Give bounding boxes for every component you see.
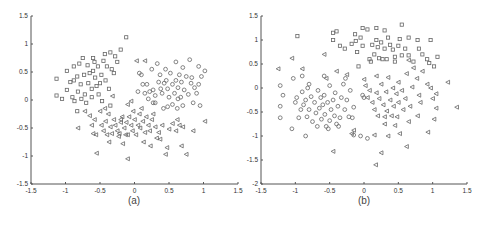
y-tick-label: -0.5 xyxy=(17,124,29,131)
circle-marker xyxy=(337,125,341,129)
square-marker xyxy=(90,96,93,99)
triangle-marker xyxy=(455,105,459,109)
square-marker xyxy=(100,100,103,103)
triangle-marker xyxy=(395,115,399,119)
y-tick-label: 0 xyxy=(254,84,258,91)
triangle-marker xyxy=(203,119,207,123)
square-marker xyxy=(92,56,95,59)
circle-marker xyxy=(174,79,178,83)
circle-marker xyxy=(307,108,311,112)
triangle-marker xyxy=(131,109,135,113)
circle-marker xyxy=(307,82,311,86)
circle-marker xyxy=(186,93,190,97)
triangle-marker xyxy=(146,123,150,127)
square-marker xyxy=(357,65,360,68)
square-marker xyxy=(110,68,113,71)
square-marker xyxy=(114,55,117,58)
triangle-marker xyxy=(345,73,349,77)
circle-marker xyxy=(158,73,162,77)
circle-marker xyxy=(145,82,149,86)
y-tick-label: 0 xyxy=(24,96,28,103)
triangle-marker xyxy=(101,129,105,133)
triangle-marker xyxy=(434,92,438,96)
circle-marker xyxy=(326,127,330,131)
triangle-marker xyxy=(398,132,402,136)
circle-marker xyxy=(319,96,323,100)
square-marker xyxy=(417,47,420,50)
circle-marker xyxy=(336,104,340,108)
circle-marker xyxy=(188,58,192,62)
circle-marker xyxy=(320,117,324,121)
square-marker xyxy=(335,30,338,33)
square-marker xyxy=(65,69,68,72)
square-marker xyxy=(83,73,86,76)
square-marker xyxy=(375,26,378,29)
square-marker xyxy=(332,38,335,41)
circle-marker xyxy=(167,95,171,99)
triangle-marker xyxy=(400,88,404,92)
triangle-marker xyxy=(184,152,188,156)
triangle-marker xyxy=(432,117,436,121)
triangle-marker xyxy=(160,123,164,127)
triangle-marker xyxy=(179,144,183,148)
circle-marker xyxy=(184,75,188,79)
triangle-marker xyxy=(119,118,123,122)
square-marker xyxy=(102,59,105,62)
triangle-marker xyxy=(76,126,80,130)
square-marker xyxy=(96,65,99,68)
square-marker xyxy=(76,75,79,78)
circle-marker xyxy=(173,91,177,95)
circle-marker xyxy=(290,127,294,131)
triangle-marker xyxy=(175,118,179,122)
triangle-marker xyxy=(365,96,369,100)
y-tick-label: -1.5 xyxy=(247,156,259,163)
square-marker xyxy=(393,60,396,63)
circle-marker xyxy=(181,104,185,108)
square-marker xyxy=(375,38,378,41)
triangle-marker xyxy=(151,112,155,116)
square-marker xyxy=(359,36,362,39)
triangle-marker xyxy=(136,123,140,127)
triangle-marker xyxy=(113,123,117,127)
subplot-caption: (a) xyxy=(128,195,140,206)
circle-marker xyxy=(302,103,306,107)
circle-marker xyxy=(191,101,195,105)
circle-marker xyxy=(175,107,179,111)
triangle-marker xyxy=(362,77,366,81)
triangle-marker xyxy=(394,92,398,96)
circle-marker xyxy=(335,122,339,126)
triangle-marker xyxy=(124,120,128,124)
circle-marker xyxy=(143,91,147,95)
triangle-marker xyxy=(374,74,378,78)
square-marker xyxy=(407,54,410,57)
square-marker xyxy=(353,33,356,36)
triangle-marker xyxy=(133,118,137,122)
circle-marker xyxy=(195,91,199,95)
square-marker xyxy=(393,55,396,58)
square-marker xyxy=(361,26,364,29)
triangle-marker xyxy=(434,106,438,110)
y-tick-label: -1 xyxy=(252,132,258,139)
triangle-marker xyxy=(372,108,376,112)
triangle-marker xyxy=(383,122,387,126)
square-marker xyxy=(432,65,435,68)
triangle-marker xyxy=(391,86,395,90)
square-marker xyxy=(378,57,381,60)
triangle-marker xyxy=(107,140,111,144)
y-tick-label: -1 xyxy=(22,152,28,159)
circle-marker xyxy=(304,134,308,138)
triangle-marker xyxy=(143,59,147,63)
triangle-marker xyxy=(122,126,126,130)
x-tick-label: 0.5 xyxy=(394,187,403,194)
y-tick-label: -2 xyxy=(252,180,258,187)
x-tick-label: -1.5 xyxy=(255,187,267,194)
series-square xyxy=(296,23,439,68)
triangle-marker xyxy=(127,115,131,119)
square-marker xyxy=(398,37,401,40)
triangle-marker xyxy=(389,114,393,118)
triangle-marker xyxy=(90,123,94,127)
triangle-marker xyxy=(335,69,339,73)
circle-marker xyxy=(278,84,282,88)
circle-marker xyxy=(174,60,178,64)
square-marker xyxy=(55,94,58,97)
